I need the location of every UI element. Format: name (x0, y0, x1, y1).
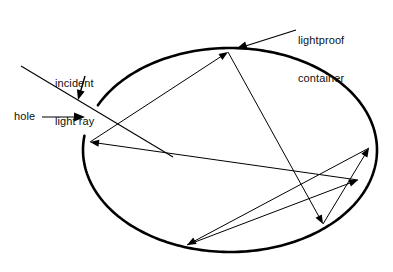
ray-arrowhead-segment-5 (348, 180, 358, 187)
ray-segment-6 (95, 143, 358, 180)
ray-arrowhead-segment-4 (187, 238, 197, 245)
label-incident-light-ray-line1: incident (55, 77, 94, 90)
label-lightproof-container: lightproof container (298, 9, 344, 109)
label-lightproof-container-line1: lightproof (298, 34, 344, 47)
diagram-canvas: lightproof container incident light ray … (0, 0, 393, 272)
ray-segment-1 (90, 55, 224, 142)
ray-segment-4 (191, 148, 369, 243)
ray-arrowhead-segment-1 (218, 52, 228, 60)
label-hole: hole (14, 110, 35, 123)
label-incident-light-ray-line2: light ray (55, 115, 94, 128)
leader-line-lightproof-container (241, 30, 296, 47)
ray-arrowhead-segment-3 (361, 148, 369, 158)
ray-arrowhead-segment-2 (316, 214, 324, 224)
leader-arrow-lightproof-container (236, 41, 248, 49)
label-lightproof-container-line2: container (298, 72, 344, 85)
ray-segment-5 (187, 182, 353, 245)
label-incident-light-ray: incident light ray (55, 52, 94, 152)
